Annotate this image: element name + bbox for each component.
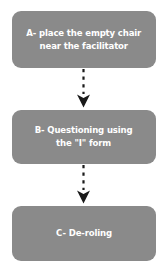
- flow-node-c[interactable]: C- De-roling: [12, 206, 156, 261]
- flow-node-b[interactable]: B- Questioning using the "I" form: [12, 110, 156, 164]
- flow-node-a[interactable]: A- place the empty chair near the facili…: [12, 11, 156, 68]
- flow-node-a-label: A- place the empty chair near the facili…: [27, 27, 142, 52]
- dashed-arrow-down-icon: [70, 164, 97, 206]
- flow-node-b-label: B- Questioning using the "I" form: [35, 124, 133, 149]
- flow-connector-b-to-c: [70, 164, 97, 206]
- flow-connector-a-to-b: [70, 68, 97, 110]
- flow-node-c-label: C- De-roling: [56, 227, 112, 240]
- flowchart-diagram: A- place the empty chair near the facili…: [0, 0, 167, 272]
- dashed-arrow-down-icon: [70, 68, 97, 110]
